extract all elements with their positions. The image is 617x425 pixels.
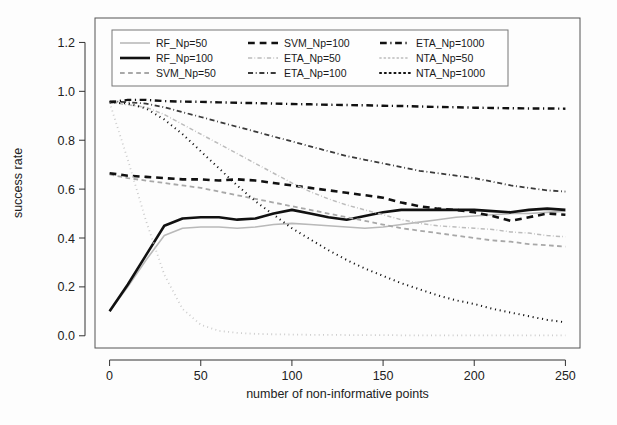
y-tick-label-0.6: 0.6 [58,183,75,197]
series-layer [110,100,566,335]
series-line-rf-np-50 [110,211,566,311]
legend-label: NTA_Np=1000 [416,67,485,79]
series-line-eta-np-100 [110,101,566,191]
x-tick-label-250: 250 [555,369,576,383]
x-tick-label-150: 150 [373,369,394,383]
legend-layer: RF_Np=50RF_Np=100SVM_Np=50SVM_Np=100ETA_… [112,30,508,86]
legend-label: ETA_Np=1000 [416,37,485,49]
x-tick-label-50: 50 [194,369,208,383]
y-tick-label-0.2: 0.2 [58,280,75,294]
series-line-eta-np-1000 [110,100,566,109]
y-tick-label-0.8: 0.8 [58,134,75,148]
y-tick-label-0.0: 0.0 [58,329,75,343]
series-line-rf-np-100 [110,209,566,312]
legend-label: NTA_Np=50 [416,52,473,64]
y-tick-label-0.4: 0.4 [58,232,75,246]
legend-label: SVM_Np=50 [156,67,216,79]
legend-label: ETA_Np=50 [284,52,341,64]
x-tick-label-0: 0 [106,369,113,383]
x-tick-label-200: 200 [464,369,485,383]
y-tick-label-1.0: 1.0 [58,85,75,99]
x-tick-label-100: 100 [281,369,302,383]
chart-svg: 0501001502002500.00.20.40.60.81.01.2numb… [0,0,617,425]
x-axis-label: number of non-informative points [246,387,429,401]
y-axis-label: success rate [11,148,25,218]
legend-label: RF_Np=50 [156,37,207,49]
legend-label: RF_Np=100 [156,52,213,64]
legend-label: SVM_Np=100 [284,37,350,49]
y-tick-label-1.2: 1.2 [58,36,75,50]
chart-figure: 0501001502002500.00.20.40.60.81.01.2numb… [0,0,617,425]
legend-label: ETA_Np=100 [284,67,347,79]
